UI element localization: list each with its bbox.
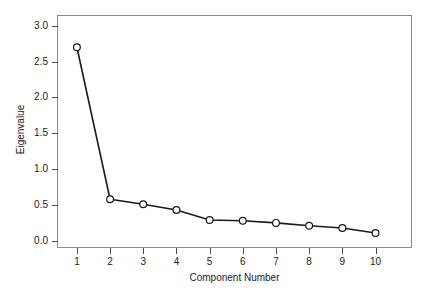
data-point-marker	[372, 230, 379, 237]
x-axis-title: Component Number	[57, 272, 412, 283]
series-line	[77, 47, 376, 233]
data-point-marker	[107, 196, 114, 203]
data-point-marker	[273, 220, 280, 227]
y-axis-title: Eigenvalue	[15, 85, 26, 175]
data-point-marker	[206, 217, 213, 224]
data-point-marker	[140, 201, 147, 208]
data-point-marker	[74, 44, 81, 51]
data-point-marker	[173, 207, 180, 214]
data-point-marker	[306, 222, 313, 229]
data-point-marker	[339, 225, 346, 232]
scree-plot-figure: 0.00.51.01.52.02.53.0 12345678910 Compon…	[0, 0, 439, 295]
eigenvalue-series	[0, 0, 439, 295]
data-point-marker	[239, 217, 246, 224]
